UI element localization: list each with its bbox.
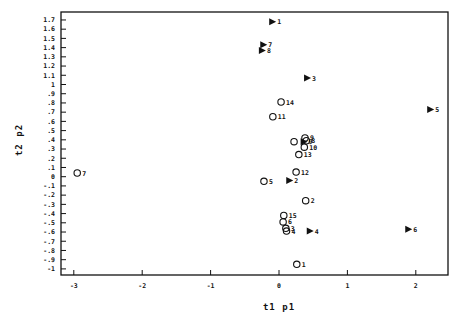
point-label: 6 — [413, 226, 417, 234]
x-axis-title: t1 p1 — [263, 302, 295, 312]
y-tick-label: 1.7 — [43, 16, 55, 24]
circle-marker — [261, 178, 267, 184]
y-tick-label: -.6 — [43, 228, 55, 236]
y-tick-label: .3 — [47, 145, 55, 153]
point-label: 3 — [312, 75, 316, 83]
data-points: 178359246141198101312521563417 — [74, 18, 439, 268]
triangle-marker — [427, 106, 434, 113]
y-tick-label: -.5 — [43, 219, 55, 227]
y-tick-label: 1.2 — [43, 62, 55, 70]
y-tick-label: -.9 — [43, 256, 55, 264]
point-label: 14 — [286, 99, 294, 107]
y-tick-label: -.7 — [43, 238, 55, 246]
y-tick-label: .7 — [47, 108, 55, 116]
circle-marker — [293, 169, 299, 175]
y-tick-label: 1.6 — [43, 25, 55, 33]
circle-marker — [301, 144, 307, 150]
x-tick-label: -1 — [207, 282, 215, 290]
circle-marker — [281, 212, 287, 218]
y-tick-label: 1.4 — [43, 44, 55, 52]
y-tick-label: -.4 — [43, 210, 55, 218]
y-tick-label: .2 — [47, 155, 55, 163]
y-tick-label: 1.5 — [43, 35, 55, 43]
y-tick-label: -.8 — [43, 247, 55, 255]
circle-marker — [291, 138, 297, 144]
point-label: 5 — [269, 178, 273, 186]
circle-marker — [280, 219, 286, 225]
circle-marker — [294, 261, 300, 267]
triangle-marker — [304, 75, 311, 82]
y-tick-label: .8 — [47, 99, 55, 107]
plot-frame — [61, 12, 448, 275]
x-tick-label: 0 — [277, 282, 281, 290]
y-tick-label: 0 — [51, 173, 55, 181]
x-axis: -3-2-1012 — [70, 270, 418, 290]
scatter-plot: 1.71.61.51.41.31.21.11.9.8.7.6.5.4.3.2.1… — [0, 0, 457, 324]
y-axis: 1.71.61.51.41.31.21.11.9.8.7.6.5.4.3.2.1… — [43, 16, 66, 273]
y-tick-label: 1.1 — [43, 72, 55, 80]
circle-marker — [270, 114, 276, 120]
y-tick-label: .9 — [47, 90, 55, 98]
y-tick-label: 1 — [51, 81, 55, 89]
y-tick-label: .1 — [47, 164, 55, 172]
y-tick-label: .4 — [47, 136, 55, 144]
y-tick-label: -.3 — [43, 201, 55, 209]
x-tick-label: 2 — [414, 282, 418, 290]
point-label: 2 — [311, 197, 315, 205]
point-label: 12 — [301, 169, 309, 177]
triangle-marker — [269, 18, 276, 25]
y-tick-label: -1 — [47, 265, 55, 273]
point-label: 1 — [302, 261, 306, 269]
triangle-marker — [307, 228, 314, 235]
y-tick-label: -.1 — [43, 182, 55, 190]
point-label: 1 — [277, 18, 281, 26]
point-label: 2 — [294, 177, 298, 185]
x-tick-label: -3 — [70, 282, 78, 290]
circle-marker — [278, 99, 284, 105]
y-tick-label: 1.3 — [43, 53, 55, 61]
circle-marker — [296, 151, 302, 157]
point-label: 4 — [315, 228, 319, 236]
x-tick-label: -2 — [138, 282, 146, 290]
point-label: 11 — [278, 113, 286, 121]
point-label: 7 — [82, 170, 86, 178]
triangle-marker — [259, 47, 266, 54]
y-axis-title: t2 p2 — [14, 124, 24, 156]
y-tick-label: .6 — [47, 118, 55, 126]
point-label: 4 — [292, 228, 296, 236]
triangle-marker — [286, 177, 293, 184]
y-tick-label: .5 — [47, 127, 55, 135]
x-tick-label: 1 — [345, 282, 349, 290]
point-label: 8 — [267, 47, 271, 55]
circle-marker — [302, 197, 308, 203]
point-label: 5 — [435, 106, 439, 114]
circle-marker — [74, 170, 80, 176]
point-label: 13 — [304, 151, 312, 159]
triangle-marker — [405, 226, 412, 233]
y-tick-label: -.2 — [43, 191, 55, 199]
